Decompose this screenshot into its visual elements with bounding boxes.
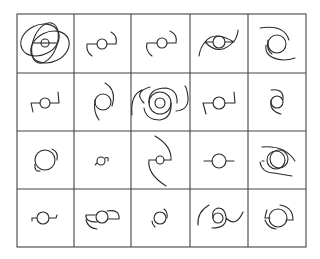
glyph-r1-c4 (271, 90, 283, 114)
glyph-r0-c2 (147, 31, 177, 56)
spiral-glyph-grid (0, 0, 320, 259)
glyph-r0-c0 (16, 18, 75, 69)
glyph-r3-c4 (265, 205, 293, 229)
glyph-r1-c3 (203, 92, 235, 114)
glyph-r2-c2 (149, 136, 171, 186)
glyph-r2-c3 (204, 154, 234, 168)
glyph-r0-c4 (260, 27, 295, 60)
glyph-r0-c3 (199, 30, 238, 56)
glyph-r3-c0 (32, 212, 57, 224)
glyph-r1-c0 (31, 92, 59, 112)
glyph-r3-c1 (86, 211, 119, 229)
glyph-r2-c4 (260, 147, 295, 176)
glyph-r3-c2 (152, 209, 167, 227)
glyph-r0-c1 (87, 32, 117, 56)
glyph-r1-c1 (95, 83, 114, 120)
glyph-r1-c2 (132, 86, 188, 120)
glyph-r3-c3 (198, 205, 243, 228)
glyph-r2-c1 (95, 157, 108, 165)
glyph-r2-c0 (35, 149, 58, 171)
